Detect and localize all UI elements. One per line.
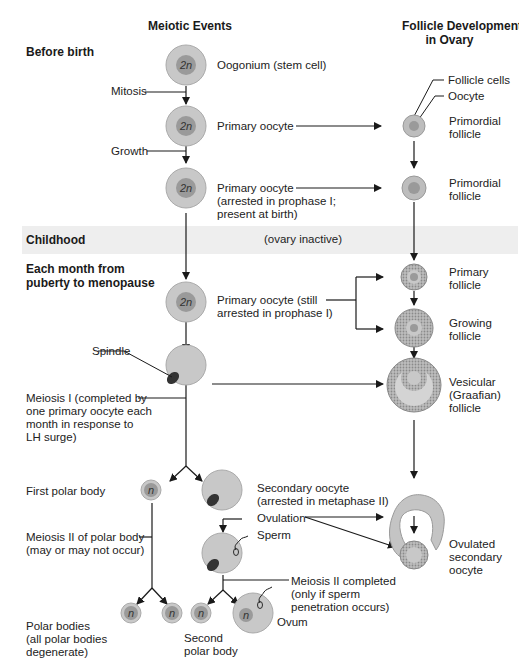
growth-arrow [147,145,186,163]
label-ovulation: Ovulation [257,512,306,525]
svg-text:2n: 2n [179,182,192,194]
svg-text:n: n [169,607,175,619]
first-polar-body-cell: n [141,480,161,500]
svg-text:2n: 2n [179,296,192,308]
primary-oocyte-arrested-cell: 2n [166,168,206,208]
diagram-graphics: 2n 2n 2n 2n n n [0,0,519,660]
second-polar-body-cell: n [191,603,211,623]
label-meiosis-ii-polar: Meiosis II of polar body (may or may not… [26,531,144,557]
svg-text:n: n [198,607,204,619]
label-polar-bodies: Polar bodies (all polar bodies degenerat… [26,620,107,659]
childhood-note: (ovary inactive) [264,233,342,246]
svg-text:2n: 2n [179,59,192,71]
meiotic-events-header: Meiotic Events [148,19,232,33]
phase-childhood: Childhood [26,233,85,247]
label-follicle-cells: Follicle cells [448,74,510,87]
label-ovum: Ovum [277,616,308,629]
primary-oocyte-cell: 2n [166,106,206,146]
primordial-follicle-2 [402,176,426,200]
label-primary-follicle: Primary follicle [449,266,489,292]
label-primordial-follicle-1: Primordial follicle [449,115,501,141]
ovulated-secondary-oocyte [400,541,428,569]
svg-text:n: n [243,609,249,621]
oogonium-cell: 2n [166,45,206,85]
growing-follicle [395,309,433,347]
svg-text:n: n [128,607,134,619]
label-vesicular-follicle: Vesicular (Graafian) follicle [449,376,501,415]
label-primary-oocyte-still: Primary oocyte (still arrested in propha… [217,294,333,320]
label-sperm: Sperm [257,529,291,542]
label-oogonium: Oogonium (stem cell) [217,59,326,72]
label-primordial-follicle-2: Primordial follicle [449,177,501,203]
sperm-oocyte-cell [202,533,248,573]
polar-body-2-cell: n [162,603,182,623]
svg-text:2n: 2n [179,120,192,132]
label-second-polar-body: Second polar body [184,632,238,658]
label-ovulated-secondary-oocyte: Ovulated secondary oocyte [449,538,502,577]
label-mitosis: Mitosis [111,85,147,98]
secondary-oocyte-cell [202,470,242,510]
primordial-follicle-1 [403,115,425,137]
phase-each-month: Each month from puberty to menopause [26,262,155,290]
label-secondary-oocyte: Secondary oocyte (arrested in metaphase … [257,482,389,508]
ovulation-arrows [305,517,395,547]
follicle-development-header: Follicle Development in Ovary [402,19,497,47]
label-primary-oocyte-arrested: Primary oocyte (arrested in prophase I; … [217,182,336,221]
label-oocyte: Oocyte [448,90,484,103]
mitosis-arrow [145,86,186,104]
phase-before-birth: Before birth [26,45,94,59]
label-growing-follicle: Growing follicle [449,317,492,343]
still-arrested-bracket [326,277,383,329]
vesicular-follicle [387,358,441,412]
label-growth: Growth [111,145,148,158]
label-first-polar-body: First polar body [26,485,105,498]
polar-body-1-cell: n [121,603,141,623]
primary-follicle [401,264,427,290]
ovulation-down-arrow [223,519,242,532]
label-spindle: Spindle [92,345,130,358]
label-primary-oocyte: Primary oocyte [217,120,294,133]
label-meiosis-ii-completed: Meiosis II completed (only if sperm pene… [291,575,396,614]
svg-text:n: n [148,484,154,496]
primary-oocyte-still-cell: 2n [166,282,206,322]
label-meiosis-i: Meiosis I (completed by one primary oocy… [26,392,152,444]
ovum-cell: n [233,587,273,633]
